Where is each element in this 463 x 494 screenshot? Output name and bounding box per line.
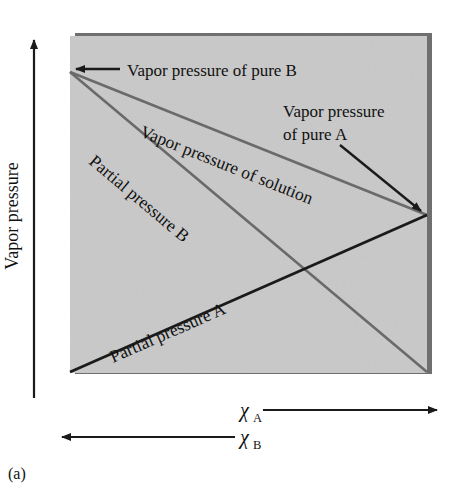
figure-canvas: Vapor pressure of pure B Vapor pressure … [0,0,463,494]
label-vapor-pressure-pure-a-line2: of pure A [283,125,348,144]
label-chi-a: χ [238,399,250,422]
plot-panel-texture [70,36,427,373]
label-chi-b: χ [238,426,250,449]
label-vapor-pressure-pure-a-line1: Vapor pressure [283,102,385,121]
label-y-axis-vapor-pressure: Vapor pressure [2,162,22,269]
vapor-pressure-figure: Vapor pressure of pure B Vapor pressure … [0,0,463,494]
label-chi-b-subscript: B [253,438,261,452]
label-vapor-pressure-pure-b: Vapor pressure of pure B [127,61,297,80]
figure-caption: (a) [8,465,26,483]
label-chi-a-subscript: A [253,411,262,425]
